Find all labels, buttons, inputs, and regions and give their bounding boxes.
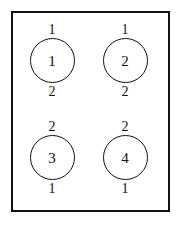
node-2-label-above: 1 — [96, 23, 154, 36]
node-1-label-below: 2 — [23, 85, 81, 98]
diagram-canvas: 1 1 2 1 2 2 2 3 1 2 4 — [0, 0, 179, 230]
node-2-circle[interactable]: 2 — [103, 38, 148, 83]
node-1-center-label: 1 — [31, 53, 74, 68]
node-3-label-above: 2 — [23, 120, 81, 133]
node-3-center-label: 3 — [31, 150, 74, 165]
node-4-label-above: 2 — [96, 120, 154, 133]
node-group-2[interactable]: 1 2 2 — [96, 23, 154, 98]
node-2-center-label: 2 — [104, 53, 147, 68]
node-group-1[interactable]: 1 1 2 — [23, 23, 81, 98]
node-1-label-above: 1 — [23, 23, 81, 36]
node-group-3[interactable]: 2 3 1 — [23, 120, 81, 195]
node-3-label-below: 1 — [23, 182, 81, 195]
node-2-label-below: 2 — [96, 85, 154, 98]
node-4-circle[interactable]: 4 — [103, 135, 148, 180]
node-1-circle[interactable]: 1 — [30, 38, 75, 83]
node-4-center-label: 4 — [104, 150, 147, 165]
node-3-circle[interactable]: 3 — [30, 135, 75, 180]
node-4-label-below: 1 — [96, 182, 154, 195]
outer-rectangle: 1 1 2 1 2 2 2 3 1 2 4 — [11, 11, 170, 212]
node-group-4[interactable]: 2 4 1 — [96, 120, 154, 195]
